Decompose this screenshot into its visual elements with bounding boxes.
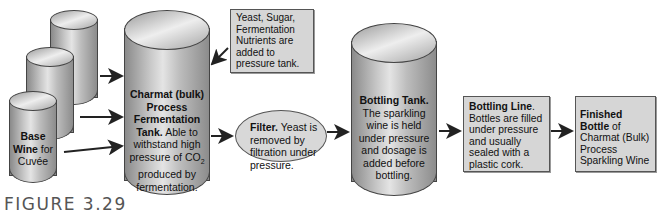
bottling-tank-text: The sparkling wine is held under pressur… — [359, 107, 430, 182]
filter-title: Filter. — [250, 121, 278, 133]
bottling-line-title: Bottling Line — [469, 101, 532, 112]
filter-step: Filter. Yeast is removed by filtration u… — [235, 110, 327, 162]
fermentation-tank-text-end: produced by fermentation. — [136, 168, 197, 193]
flow-arrows — [0, 0, 660, 219]
bottling-tank-title: Bottling Tank. — [359, 94, 428, 106]
base-wine-label-2: Wine — [13, 143, 38, 155]
finished-bottle-step: Finished Bottle of Charmat (Bulk) Proces… — [575, 96, 656, 172]
base-wine-tank: Base Wine for Cuvée — [9, 91, 57, 183]
base-wine-label-1: Base — [9, 130, 57, 143]
bottling-line-text: Bottles are filled under pressure and us… — [469, 113, 542, 170]
co2-subscript: 2 — [201, 158, 205, 165]
additives-note-text: Yeast, Sugar, Fermentation Nutrients are… — [236, 12, 299, 69]
additives-note: Yeast, Sugar, Fermentation Nutrients are… — [230, 9, 314, 73]
bottling-line-step: Bottling Line. Bottles are filled under … — [463, 96, 550, 172]
fermentation-tank: Charmat (bulk) Process Fermentation Tank… — [124, 10, 210, 196]
bottling-line-dot: . — [532, 101, 535, 112]
base-wine-label-3: for — [41, 143, 53, 155]
bottling-tank: Bottling Tank. The sparkling wine is hel… — [351, 23, 437, 196]
base-wine-label-4: Cuvée — [9, 155, 57, 168]
figure-caption: FIGURE 3.29 — [4, 194, 127, 214]
